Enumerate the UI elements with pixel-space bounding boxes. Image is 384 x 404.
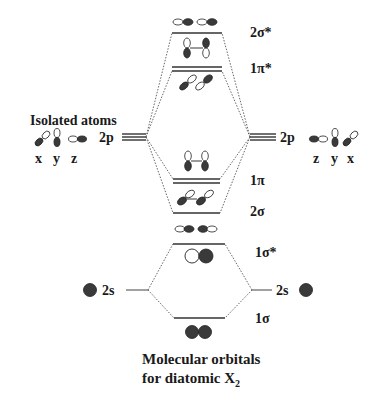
label-1pi: 1π bbox=[250, 173, 265, 188]
caption-line-2: for diatomic X2 bbox=[142, 370, 240, 389]
orbital-1pi-star-diagonal-icon bbox=[178, 73, 214, 91]
left-axis-y: y bbox=[53, 151, 60, 166]
orbital-1sigma-star-icon bbox=[185, 249, 213, 263]
caption-line-1: Molecular orbitals bbox=[142, 351, 261, 367]
label-1sigma: 1σ bbox=[255, 311, 270, 326]
label-2sigma-star: 2σ* bbox=[250, 25, 272, 40]
orbital-1pi-star-vertical-icon bbox=[184, 38, 210, 58]
left-2p-label: 2p bbox=[99, 130, 114, 145]
right-axis-y: y bbox=[331, 151, 338, 166]
orbital-2sigma-star-icon bbox=[173, 19, 217, 26]
right-p-orbitals-icon bbox=[310, 129, 360, 148]
correlation-lines bbox=[146, 33, 252, 318]
orbital-1pi-diagonal-icon bbox=[176, 189, 215, 207]
left-axis-x: x bbox=[35, 151, 42, 166]
isolated-atoms-heading: Isolated atoms bbox=[30, 113, 117, 128]
left-p-orbitals-icon bbox=[34, 129, 87, 148]
orbital-1pi-vertical-icon bbox=[185, 151, 209, 171]
left-axis-z: z bbox=[71, 151, 77, 166]
right-axis-x: x bbox=[347, 151, 354, 166]
right-axis-z: z bbox=[313, 151, 319, 166]
left-2s-label: 2s bbox=[102, 283, 115, 298]
left-2s-orbital-icon bbox=[84, 284, 97, 297]
label-1sigma-star: 1σ* bbox=[255, 245, 277, 260]
right-2s-orbital-icon bbox=[300, 284, 313, 297]
label-1pi-star: 1π* bbox=[250, 61, 272, 76]
label-2sigma: 2σ bbox=[250, 204, 265, 219]
mo-diagram: 2σ* 1π* 1π 2σ 1σ* 1σ Isolated atoms 2p 2… bbox=[0, 0, 384, 404]
orbital-1sigma-icon bbox=[186, 326, 212, 339]
right-2p-label: 2p bbox=[280, 130, 295, 145]
right-2s-label: 2s bbox=[276, 283, 289, 298]
orbital-2sigma-icon bbox=[175, 226, 217, 233]
